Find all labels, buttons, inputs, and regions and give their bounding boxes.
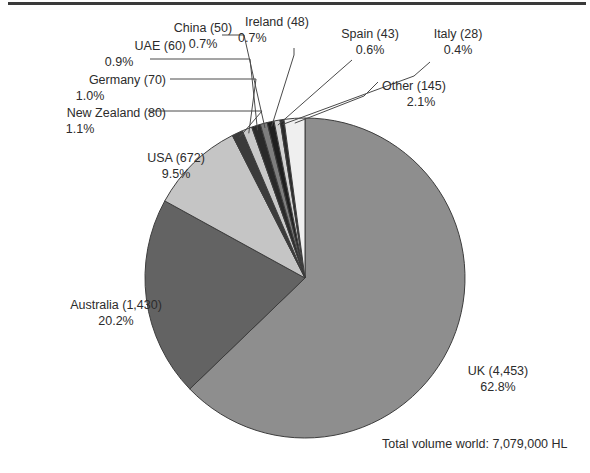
slice-label-spain: Spain (43) 0.6% xyxy=(328,26,412,58)
slice-label-ireland-name: Ireland (48) xyxy=(232,14,322,30)
leader-line-ireland xyxy=(272,48,294,126)
slice-label-italy-name: Italy (28) xyxy=(420,26,496,42)
pie-chart-graphic xyxy=(0,0,590,473)
slice-label-italy: Italy (28) 0.4% xyxy=(420,26,496,58)
slice-label-new-zealand: New Zealand (80) 1.1% xyxy=(0,105,166,137)
slice-label-australia-name: Australia (1,430) xyxy=(46,297,186,313)
slice-label-australia-percent: 20.2% xyxy=(46,313,186,329)
slice-label-other-name: Other (145) xyxy=(382,78,492,94)
slice-label-germany: Germany (70) 1.0% xyxy=(14,72,166,104)
slice-label-spain-percent: 0.6% xyxy=(328,42,412,58)
slice-label-germany-percent: 1.0% xyxy=(14,88,166,104)
slice-label-other-percent: 2.1% xyxy=(382,94,460,110)
slice-label-ireland: Ireland (48) 0.7% xyxy=(232,14,322,46)
slice-label-uae-percent: 0.9% xyxy=(52,54,186,70)
slice-label-spain-name: Spain (43) xyxy=(328,26,412,42)
slice-label-germany-name: Germany (70) xyxy=(14,72,166,88)
slice-label-usa-percent: 9.5% xyxy=(124,166,228,182)
slice-label-uk: UK (4,453) 62.8% xyxy=(450,363,546,395)
slice-label-other: Other (145) 2.1% xyxy=(382,78,492,110)
slice-label-usa: USA (672) 9.5% xyxy=(124,150,228,182)
slice-label-new-zealand-name: New Zealand (80) xyxy=(0,105,166,121)
leader-line-germany xyxy=(170,79,256,133)
slice-label-usa-name: USA (672) xyxy=(124,150,228,166)
slice-label-australia: Australia (1,430) 20.2% xyxy=(46,297,186,329)
slice-label-uk-name: UK (4,453) xyxy=(450,363,546,379)
slice-label-italy-percent: 0.4% xyxy=(420,42,496,58)
slice-label-ireland-percent: 0.7% xyxy=(232,30,322,46)
pie-chart-figure: New Zealand (80) 1.1% Germany (70) 1.0% … xyxy=(0,0,590,473)
slice-label-new-zealand-percent: 1.1% xyxy=(0,121,166,137)
total-volume-note: Total volume world: 7,079,000 HL xyxy=(382,437,568,451)
leader-line-other xyxy=(295,82,378,123)
slice-label-uk-percent: 62.8% xyxy=(450,379,546,395)
